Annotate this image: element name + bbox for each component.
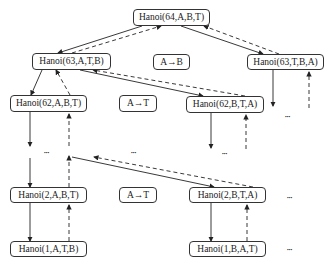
ellipsis: ••• (287, 194, 292, 202)
call-edge (72, 157, 214, 187)
ellipsis: ••• (44, 149, 49, 157)
hanoi-call-node: Hanoi(63,T,B,A) (247, 54, 324, 70)
edges-layer (0, 0, 329, 267)
ellipsis: ••• (285, 113, 290, 121)
hanoi-call-node: Hanoi(2,B,T,A) (189, 187, 266, 203)
return-edge (56, 70, 70, 95)
hanoi-call-node: Hanoi(64,A,B,T) (133, 9, 210, 26)
call-edge (31, 70, 42, 95)
ellipsis: ••• (287, 246, 292, 254)
return-edge (204, 26, 279, 54)
ellipsis: ••• (131, 149, 136, 157)
hanoi-call-node: Hanoi(63,A,T,B) (32, 53, 111, 70)
hanoi-call-node: Hanoi(62,B,T,A) (186, 96, 264, 113)
call-edge (80, 70, 203, 96)
call-edge (58, 26, 142, 53)
move-node: A→T (119, 95, 157, 112)
return-edge (94, 157, 253, 187)
ellipsis: ••• (222, 150, 227, 158)
move-node: A→B (153, 54, 190, 70)
move-node: A→T (119, 187, 157, 203)
return-edge (93, 70, 245, 96)
hanoi-call-node: Hanoi(2,A,B,T) (10, 187, 87, 203)
call-edge (181, 26, 263, 54)
return-edge (72, 26, 161, 53)
hanoi-call-node: Hanoi(1,A,T,B) (10, 241, 87, 257)
hanoi-call-node: Hanoi(1,B,A,T) (189, 241, 266, 257)
hanoi-call-node: Hanoi(62,A,B,T) (10, 95, 87, 112)
